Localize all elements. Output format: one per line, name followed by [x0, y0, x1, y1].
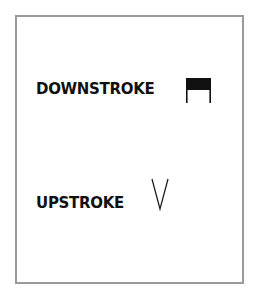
downstroke-icon	[185, 77, 213, 109]
upstroke-label: UPSTROKE	[36, 194, 124, 212]
downstroke-label: DOWNSTROKE	[36, 80, 155, 98]
upstroke-icon	[150, 177, 170, 215]
legend-frame	[15, 15, 244, 284]
